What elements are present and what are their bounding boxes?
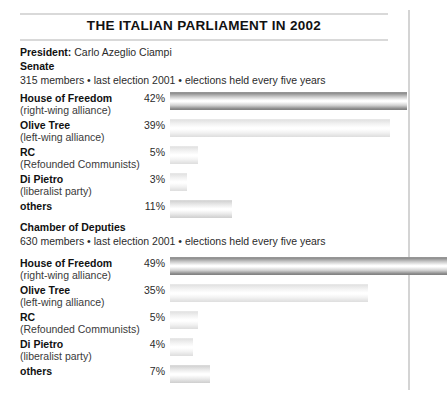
title-rule-top bbox=[20, 13, 388, 15]
value-label: 35% bbox=[110, 284, 165, 296]
bar-track bbox=[170, 257, 447, 275]
chart-row: Di Pietro(liberalist party)3% bbox=[0, 173, 420, 200]
bar bbox=[170, 311, 198, 329]
bar bbox=[170, 257, 447, 275]
president-line: President: Carlo Azeglio Ciampi bbox=[20, 46, 172, 58]
value-label: 4% bbox=[110, 338, 165, 350]
bar-track bbox=[170, 365, 210, 383]
section-heading-chamber: Chamber of Deputies630 members • last el… bbox=[20, 221, 326, 247]
bar bbox=[170, 365, 210, 383]
bar-track bbox=[170, 119, 390, 137]
chart-row: House of Freedom(right-wing alliance)49% bbox=[0, 257, 420, 284]
chart-row: Olive Tree(left-wing alliance)39% bbox=[0, 119, 420, 146]
bar bbox=[170, 92, 407, 110]
party-description: (right-wing alliance) bbox=[20, 104, 150, 116]
value-label: 11% bbox=[110, 200, 165, 212]
chart-row: RC(Refounded Communists)5% bbox=[0, 146, 420, 173]
bar bbox=[170, 173, 187, 191]
value-label: 5% bbox=[110, 146, 165, 158]
party-description: (Refounded Communists) bbox=[20, 158, 150, 170]
party-description: (liberalist party) bbox=[20, 350, 150, 362]
party-description: (left-wing alliance) bbox=[20, 131, 150, 143]
value-label: 49% bbox=[110, 257, 165, 269]
value-label: 7% bbox=[110, 365, 165, 377]
title-rule-bottom bbox=[20, 39, 388, 41]
value-label: 42% bbox=[110, 92, 165, 104]
value-label: 39% bbox=[110, 119, 165, 131]
bar bbox=[170, 338, 193, 356]
bar bbox=[170, 284, 368, 302]
value-label: 3% bbox=[110, 173, 165, 185]
section-heading-senate: Senate315 members • last election 2001 •… bbox=[20, 60, 326, 86]
section-subtitle: 315 members • last election 2001 • elect… bbox=[20, 74, 326, 86]
page-title: THE ITALIAN PARLIAMENT IN 2002 bbox=[20, 18, 388, 33]
bar-track bbox=[170, 338, 193, 356]
chart-row: RC(Refounded Communists)5% bbox=[0, 311, 420, 338]
bar-track bbox=[170, 173, 187, 191]
party-description: (left-wing alliance) bbox=[20, 296, 150, 308]
president-name: Carlo Azeglio Ciampi bbox=[74, 46, 171, 58]
section-title: Senate bbox=[20, 60, 326, 72]
bar bbox=[170, 200, 232, 218]
value-label: 5% bbox=[110, 311, 165, 323]
section-title: Chamber of Deputies bbox=[20, 221, 326, 233]
chart-row: Olive Tree(left-wing alliance)35% bbox=[0, 284, 420, 311]
chart-row: Di Pietro(liberalist party)4% bbox=[0, 338, 420, 365]
president-label: President: bbox=[20, 46, 71, 58]
party-description: (right-wing alliance) bbox=[20, 269, 150, 281]
bar-track bbox=[170, 284, 368, 302]
bar-track bbox=[170, 146, 198, 164]
chart-row: others7% bbox=[0, 365, 420, 392]
bar-track bbox=[170, 200, 232, 218]
party-description: (Refounded Communists) bbox=[20, 323, 150, 335]
bar-track bbox=[170, 92, 407, 110]
section-subtitle: 630 members • last election 2001 • elect… bbox=[20, 235, 326, 247]
party-description: (liberalist party) bbox=[20, 185, 150, 197]
bar-track bbox=[170, 311, 198, 329]
bar bbox=[170, 146, 198, 164]
bar bbox=[170, 119, 390, 137]
chart-row: House of Freedom(right-wing alliance)42% bbox=[0, 92, 420, 119]
